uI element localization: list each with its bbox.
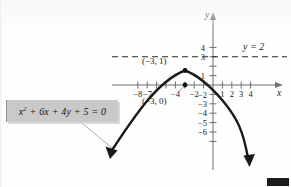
parabola-right-arrowhead [244,154,256,167]
graph-canvas: −8 −7 −4 −2 1 2 3 4 4 3 1 −2 −3 −4 −5 −6… [0,0,291,187]
parabola-figure: −8 −7 −4 −2 1 2 3 4 4 3 1 −2 −3 −4 −5 −6… [0,0,291,187]
parabola-left-arrowhead [106,147,118,160]
equation-rest: + 6x + 4y + 5 = 0 [27,106,106,117]
vertex-point-marker [183,68,188,73]
equation-text: x2 + 6x + 4y + 5 = 0 [19,105,107,117]
equation-leader-line [83,124,112,148]
directrix-label: y = 2 [242,41,264,52]
parabola-curve [113,71,249,159]
vertex-label: (−3, 1) [142,56,167,66]
x-tick-label-3: 3 [239,89,243,99]
point-label: (−3, 0) [142,96,167,106]
equation-callout-box: x2 + 6x + 4y + 5 = 0 [6,100,118,122]
x-tick-label-4: 4 [248,89,253,99]
scan-artifact-corner-mark [267,178,289,186]
x-axis-name: x [276,88,282,98]
y-tick-label-neg6: −6 [198,127,207,137]
x-tick-label-neg8: −8 [133,89,142,99]
x-tick-label-2: 2 [230,89,234,99]
y-axis-name: y [204,10,210,20]
